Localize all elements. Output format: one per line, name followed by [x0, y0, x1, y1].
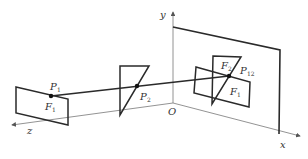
svg-text:P: P	[239, 65, 247, 76]
projection-diagram: y x z O P 1 P 2 P 12 F 1 F 2 F 1	[0, 0, 308, 159]
label-f1-right: F 1	[229, 86, 241, 98]
svg-text:1: 1	[237, 91, 241, 98]
svg-text:1: 1	[57, 86, 61, 93]
diagram-canvas: y x z O P 1 P 2 P 12 F 1 F 2 F 1	[0, 0, 308, 159]
label-f1-left: F 1	[44, 101, 56, 113]
svg-text:12: 12	[247, 70, 255, 77]
z-axis	[12, 103, 173, 125]
svg-text:1: 1	[52, 106, 56, 113]
label-f2-right: F 2	[220, 60, 232, 72]
origin-label: O	[168, 106, 176, 117]
svg-text:2: 2	[228, 65, 232, 72]
label-p1: P 1	[49, 81, 61, 93]
point-p12	[227, 74, 231, 78]
label-p12: P 12	[239, 65, 255, 77]
x-axis-label: x	[280, 139, 286, 150]
point-p2	[135, 84, 139, 88]
svg-text:P: P	[139, 91, 147, 102]
y-axis-label: y	[159, 9, 166, 20]
label-p2: P 2	[139, 91, 151, 103]
z-axis-label: z	[26, 125, 33, 136]
x-axis	[173, 103, 300, 136]
point-p1	[49, 94, 53, 98]
svg-text:2: 2	[147, 96, 151, 103]
svg-text:P: P	[49, 81, 57, 92]
